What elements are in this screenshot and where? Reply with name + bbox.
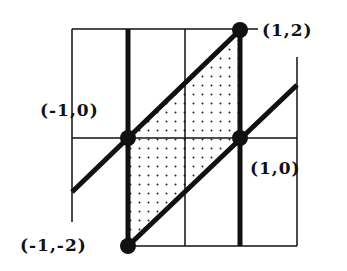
label-point-neg1-neg2: (-1,-2)	[20, 235, 87, 255]
label-point-1-0: (1,0)	[250, 158, 301, 178]
grid-lines	[72, 29, 297, 246]
label-point-neg1-0: (-1,0)	[40, 100, 99, 120]
diagram-canvas	[0, 0, 347, 271]
label-point-1-2: (1,2)	[262, 20, 313, 40]
